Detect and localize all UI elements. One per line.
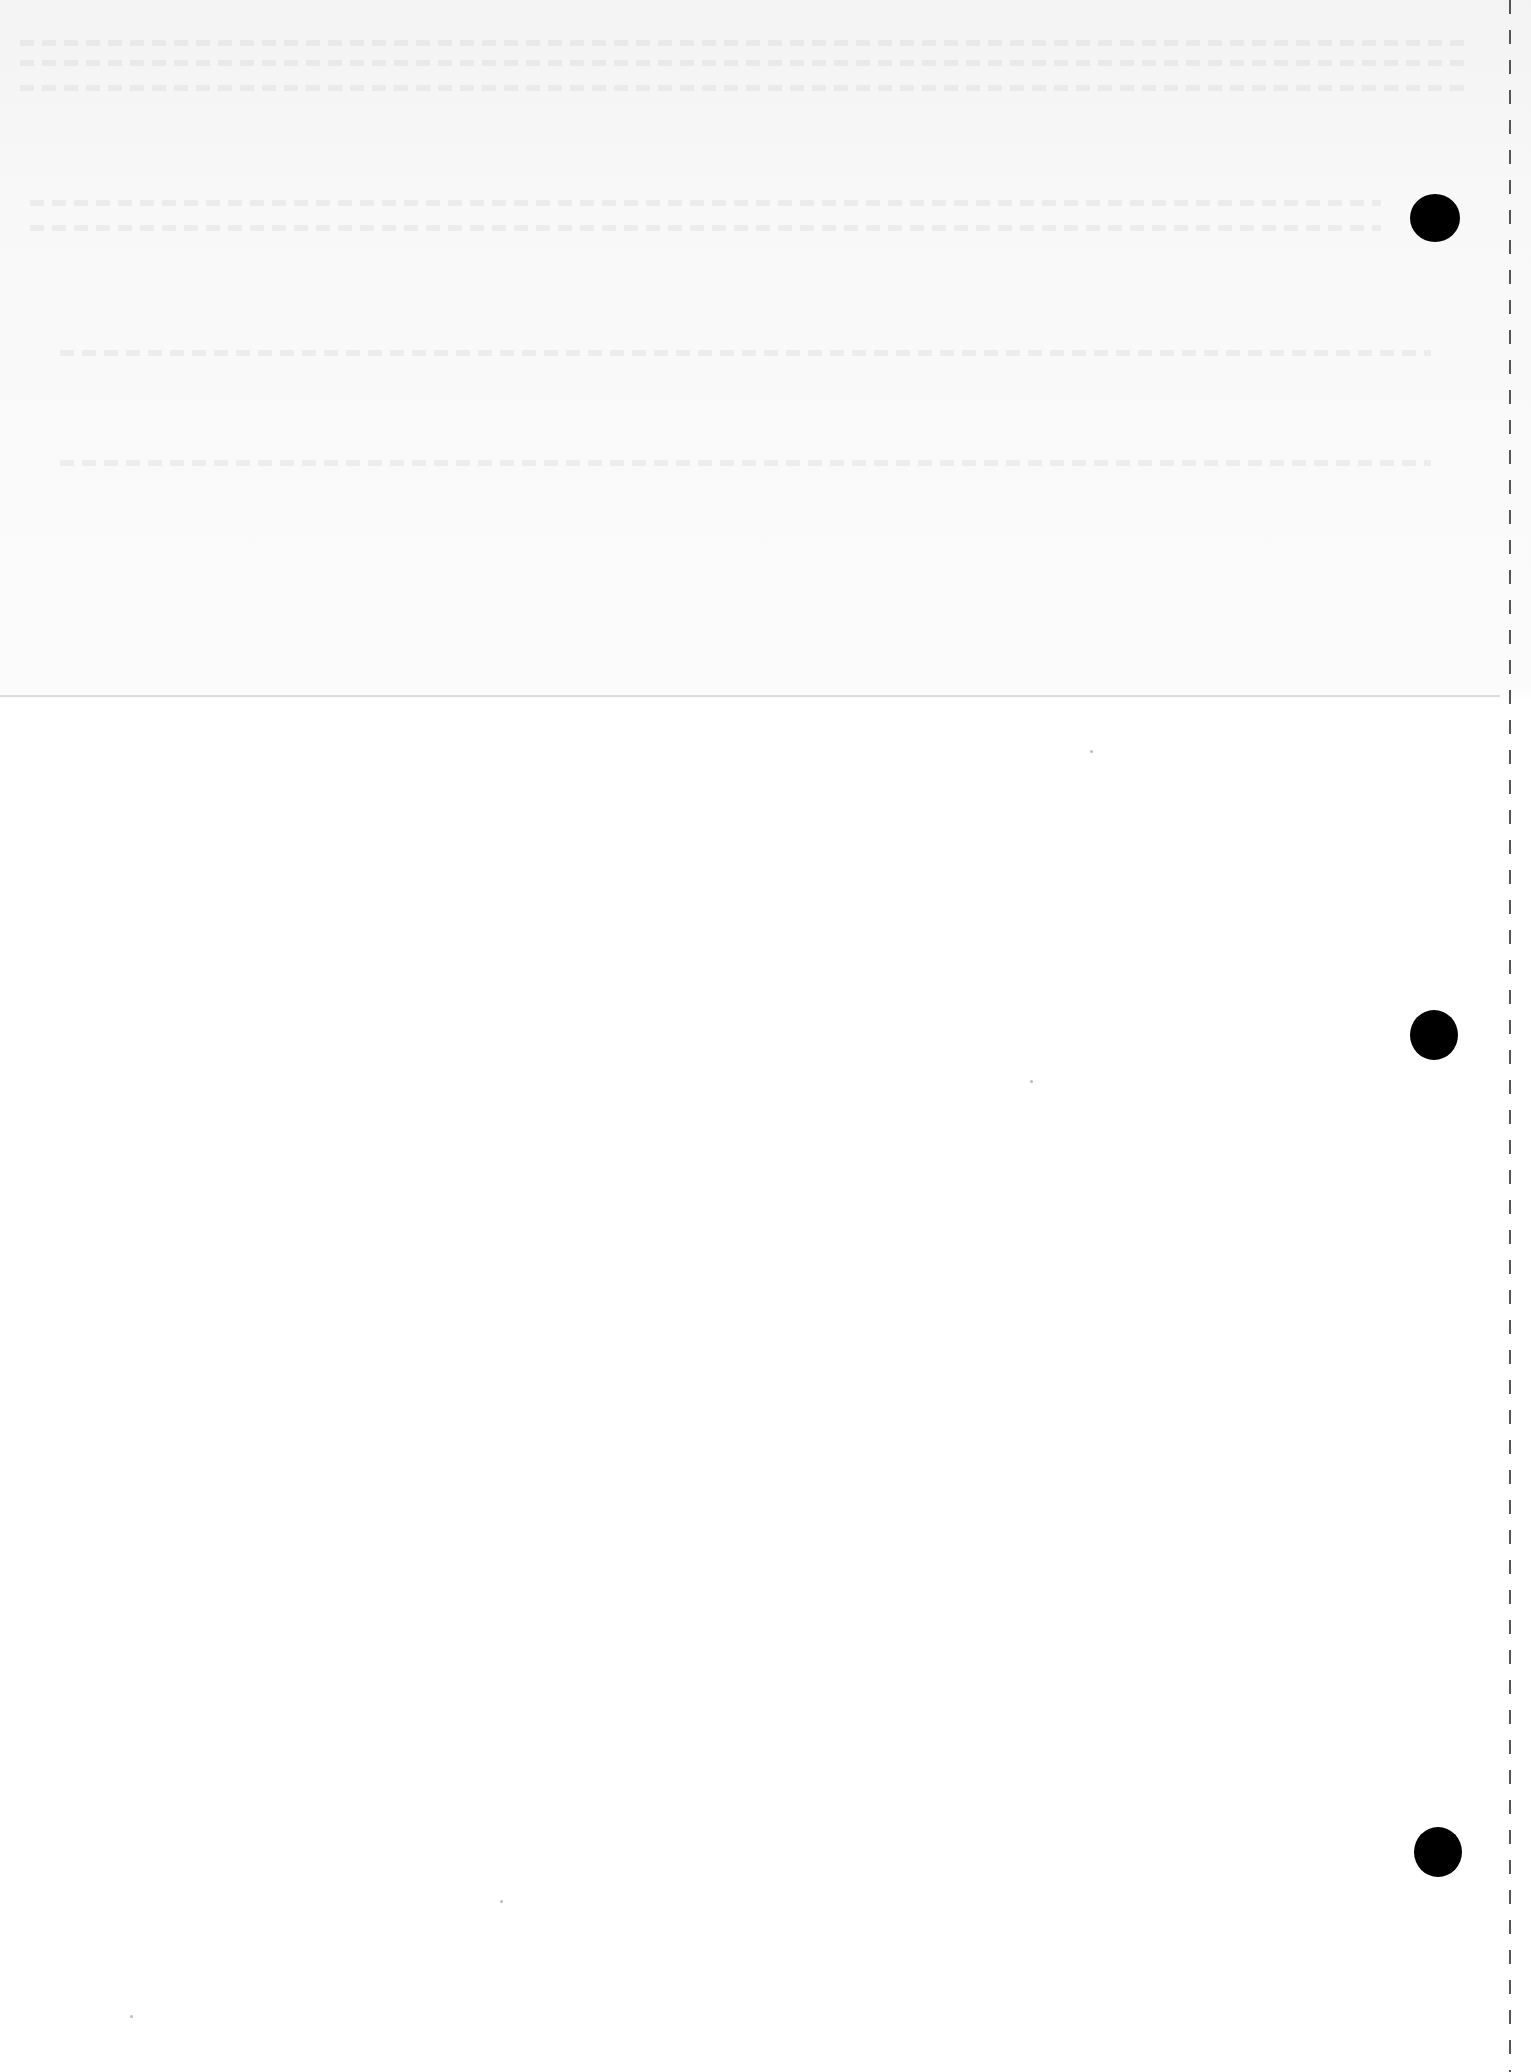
bleed-through-text xyxy=(20,60,1471,66)
bleed-through-text xyxy=(30,200,1381,206)
dust-speck xyxy=(1090,750,1093,753)
fold-line xyxy=(0,695,1500,697)
bleed-through-text xyxy=(20,40,1471,46)
perforated-edge xyxy=(1509,0,1511,2072)
punch-hole-middle xyxy=(1410,1010,1458,1060)
dust-speck xyxy=(500,1900,503,1903)
bleed-through-text xyxy=(30,225,1381,231)
bleed-through-text xyxy=(60,350,1431,356)
scanned-page xyxy=(0,0,1531,2072)
punch-hole-bottom xyxy=(1414,1827,1462,1877)
punch-hole-top xyxy=(1410,194,1460,242)
bleed-through-text xyxy=(60,460,1431,466)
bleed-through-text xyxy=(20,85,1471,91)
dust-speck xyxy=(1030,1080,1033,1083)
dust-speck xyxy=(130,2015,133,2018)
